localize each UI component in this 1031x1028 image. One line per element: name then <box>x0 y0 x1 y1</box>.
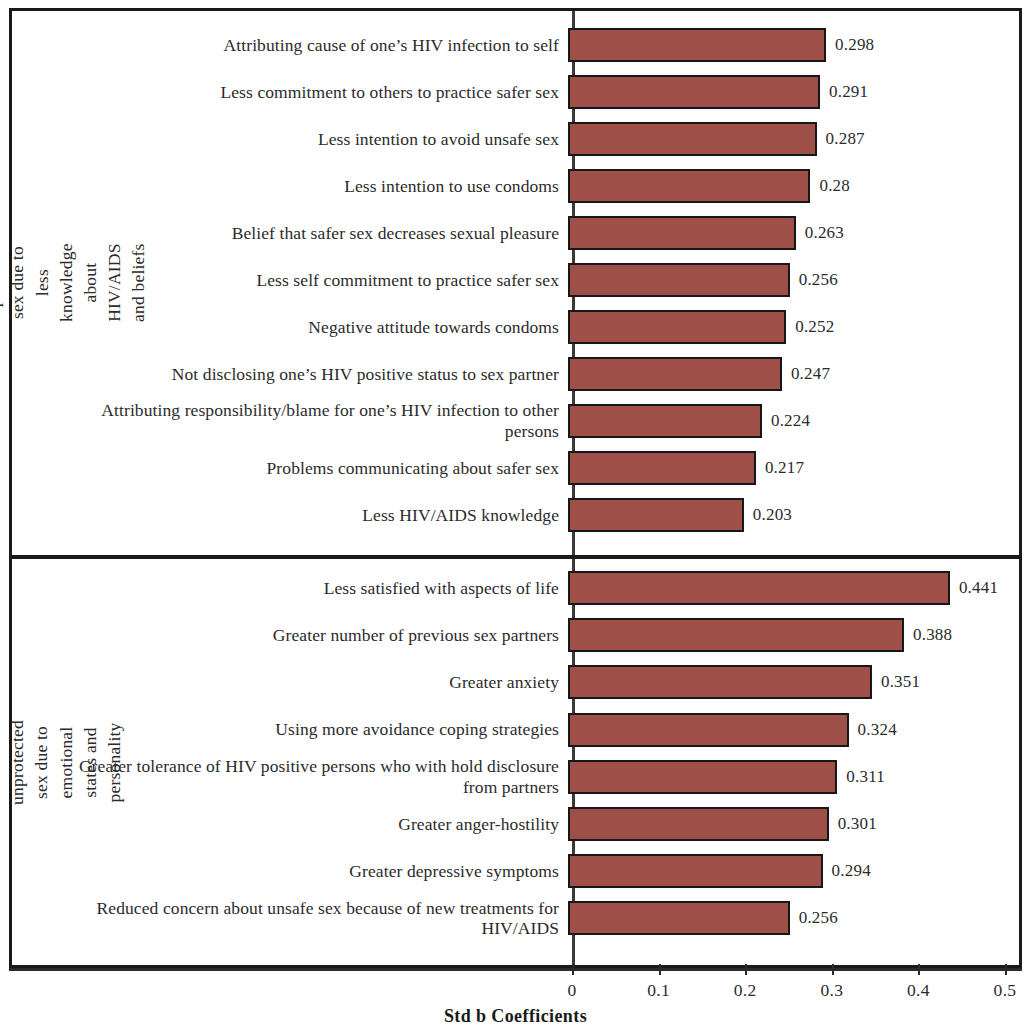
x-axis-tick <box>832 964 834 975</box>
bar-value-label: 0.351 <box>872 672 920 692</box>
panel-emotional-axis-title: Likelihood of unprotected sex due to emo… <box>12 559 70 965</box>
bar-container: 0.256 <box>568 263 1019 297</box>
bar <box>568 310 786 344</box>
bar-container: 0.224 <box>568 404 1019 438</box>
bar-row: Greater anxiety0.351 <box>70 665 1019 699</box>
bar-value-label: 0.252 <box>786 317 834 337</box>
chart-panel-emotional: Likelihood of unprotected sex due to emo… <box>9 559 1022 968</box>
bar-value-label: 0.256 <box>790 270 838 290</box>
bar-container: 0.263 <box>568 216 1019 250</box>
bar-value-label: 0.324 <box>849 720 897 740</box>
bar-category-label: Greater anger-hostility <box>70 814 568 835</box>
panel-knowledge-rows: Attributing cause of one’s HIV infection… <box>70 11 1019 555</box>
bar-value-label: 0.311 <box>837 767 885 787</box>
x-axis: 00.10.20.30.40.5 Std b Coefficients <box>0 968 1031 1028</box>
bar-category-label: Reduced concern about unsafe sex because… <box>70 898 568 939</box>
x-axis-tick-label: 0.1 <box>647 980 670 1001</box>
bar <box>568 901 790 935</box>
bar <box>568 404 762 438</box>
bar <box>568 28 826 62</box>
bar-value-label: 0.256 <box>790 908 838 928</box>
bar-value-label: 0.294 <box>823 861 871 881</box>
bar-category-label: Less satisfied with aspects of life <box>70 578 568 599</box>
x-axis-tick-label: 0.3 <box>820 980 843 1001</box>
bar-row: Problems communicating about safer sex0.… <box>70 451 1019 485</box>
bar-category-label: Belief that safer sex decreases sexual p… <box>70 223 568 244</box>
bar <box>568 760 837 794</box>
x-axis-tick-label: 0.4 <box>907 980 930 1001</box>
bar-row: Greater anger-hostility0.301 <box>70 807 1019 841</box>
bar-container: 0.388 <box>568 618 1019 652</box>
bar-container: 0.256 <box>568 901 1019 935</box>
bar-row: Less self commitment to practice safer s… <box>70 263 1019 297</box>
bar-value-label: 0.298 <box>826 35 874 55</box>
x-axis-title: Std b Coefficients <box>0 1006 1031 1027</box>
bar-category-label: Less intention to use condoms <box>70 176 568 197</box>
bar-container: 0.203 <box>568 498 1019 532</box>
bar-row: Negative attitude towards condoms0.252 <box>70 310 1019 344</box>
bar-container: 0.294 <box>568 854 1019 888</box>
bar-category-label: Less self commitment to practice safer s… <box>70 270 568 291</box>
bar-row: Greater depressive symptoms0.294 <box>70 854 1019 888</box>
bar-value-label: 0.301 <box>829 814 877 834</box>
bar <box>568 713 849 747</box>
bar-category-label: Problems communicating about safer sex <box>70 458 568 479</box>
x-axis-tick <box>572 964 574 975</box>
bar-value-label: 0.263 <box>796 223 844 243</box>
chart-panel-knowledge: Likelihood of unprotected sex due to les… <box>9 8 1022 559</box>
bar-value-label: 0.247 <box>782 364 830 384</box>
bar-row: Less satisfied with aspects of life0.441 <box>70 571 1019 605</box>
bar-value-label: 0.217 <box>756 458 804 478</box>
bar-category-label: Less HIV/AIDS knowledge <box>70 505 568 526</box>
bar-container: 0.252 <box>568 310 1019 344</box>
x-axis-tick <box>659 964 661 975</box>
bar-row: Reduced concern about unsafe sex because… <box>70 901 1019 935</box>
panel-knowledge-axis-title: Likelihood of unprotected sex due to les… <box>12 11 70 555</box>
bar-container: 0.351 <box>568 665 1019 699</box>
x-axis-tick-label: 0.2 <box>734 980 757 1001</box>
bar-container: 0.301 <box>568 807 1019 841</box>
bar-category-label: Greater anxiety <box>70 672 568 693</box>
bar <box>568 216 796 250</box>
bar <box>568 807 829 841</box>
bar-value-label: 0.287 <box>817 129 865 149</box>
bar-value-label: 0.441 <box>950 578 998 598</box>
panel-emotional-rows: Less satisfied with aspects of life0.441… <box>70 559 1019 965</box>
bar-container: 0.324 <box>568 713 1019 747</box>
x-axis-tick <box>1005 964 1007 975</box>
bar-container: 0.298 <box>568 28 1019 62</box>
bar-value-label: 0.28 <box>810 176 850 196</box>
bar-container: 0.217 <box>568 451 1019 485</box>
bar-container: 0.287 <box>568 122 1019 156</box>
bar <box>568 665 872 699</box>
bar-category-label: Greater tolerance of HIV positive person… <box>70 756 568 797</box>
x-axis-tick <box>745 964 747 975</box>
figure: Likelihood of unprotected sex due to les… <box>0 0 1031 1028</box>
bar-category-label: Using more avoidance coping strategies <box>70 719 568 740</box>
bar <box>568 122 817 156</box>
bar-container: 0.291 <box>568 75 1019 109</box>
bar-container: 0.441 <box>568 571 1019 605</box>
bar-container: 0.311 <box>568 760 1019 794</box>
bar <box>568 451 756 485</box>
bar-container: 0.28 <box>568 169 1019 203</box>
bar-category-label: Less intention to avoid unsafe sex <box>70 129 568 150</box>
bar-container: 0.247 <box>568 357 1019 391</box>
bar <box>568 169 810 203</box>
x-axis-tick-label: 0.5 <box>994 980 1017 1001</box>
bar-value-label: 0.388 <box>904 625 952 645</box>
bar <box>568 263 790 297</box>
bar-value-label: 0.203 <box>744 505 792 525</box>
bar <box>568 854 823 888</box>
bar-row: Greater tolerance of HIV positive person… <box>70 760 1019 794</box>
bar-category-label: Less commitment to others to practice sa… <box>70 82 568 103</box>
bar <box>568 571 950 605</box>
bar-category-label: Attributing cause of one’s HIV infection… <box>70 35 568 56</box>
x-axis-tick <box>918 964 920 975</box>
bar <box>568 618 904 652</box>
bar-row: Less commitment to others to practice sa… <box>70 75 1019 109</box>
bar-row: Belief that safer sex decreases sexual p… <box>70 216 1019 250</box>
bar-row: Greater number of previous sex partners0… <box>70 618 1019 652</box>
bar-category-label: Greater depressive symptoms <box>70 861 568 882</box>
x-axis-tick-label: 0 <box>567 980 576 1001</box>
